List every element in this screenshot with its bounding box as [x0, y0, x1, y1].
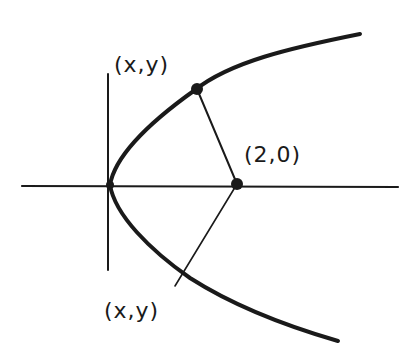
vertex-point-dot [106, 181, 114, 189]
label-lower-point: (x,y) [104, 298, 159, 323]
label-focus-point: (2,0) [244, 142, 301, 167]
segment-upper-to-focus [197, 89, 237, 184]
upper-point-dot [191, 83, 203, 95]
x-axis [22, 186, 398, 187]
segment-focus-to-lower [175, 184, 237, 286]
label-upper-point: (x,y) [114, 52, 169, 77]
focus-point-dot [231, 178, 243, 190]
diagram-canvas [0, 0, 417, 360]
